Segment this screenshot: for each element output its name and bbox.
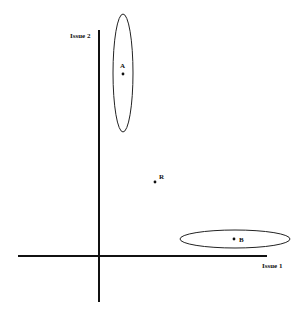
point-a <box>122 73 125 76</box>
spatial-diagram: Issue 2 Issue 1 A R B <box>0 0 303 315</box>
x-axis-label: Issue 1 <box>262 262 283 270</box>
point-a-label: A <box>120 62 125 70</box>
point-r-label: R <box>159 173 165 181</box>
point-b-label: B <box>239 236 244 244</box>
point-b <box>233 238 236 241</box>
y-axis-label: Issue 2 <box>70 32 91 40</box>
point-r <box>154 181 157 184</box>
